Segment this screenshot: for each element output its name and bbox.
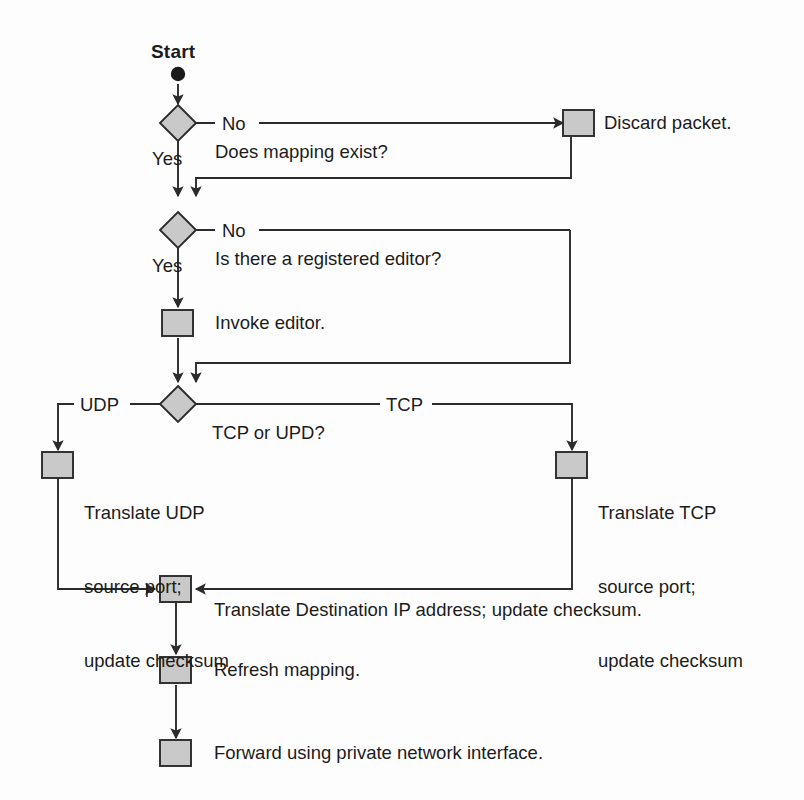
process-label-translate-tcp-line1: Translate TCP [598, 501, 743, 526]
edge-label-editor-yes: Yes [152, 254, 182, 278]
process-forward-packet [160, 740, 191, 766]
process-label-translate-tcp-line3: update checksum [598, 649, 743, 674]
start-label: Start [151, 40, 195, 64]
process-discard-packet [563, 110, 594, 136]
process-translate-tcp [556, 452, 587, 478]
process-label-translate-udp-line3: update checksum [84, 649, 229, 674]
process-invoke-editor [162, 310, 193, 336]
process-label-invoke-editor: Invoke editor. [215, 311, 325, 335]
process-label-translate-destination: Translate Destination IP address; update… [214, 598, 642, 622]
process-label-refresh-mapping: Refresh mapping. [214, 658, 360, 682]
edge-label-mapping-no: No [222, 112, 246, 136]
process-translate-udp [42, 452, 73, 478]
connector-tcp-to-merge [196, 478, 572, 589]
process-label-translate-tcp: Translate TCP source port; update checks… [598, 452, 743, 723]
edge-label-editor-no: No [222, 219, 246, 243]
process-label-translate-tcp-line2: source port; [598, 575, 743, 600]
decision-label-registered-editor: Is there a registered editor? [215, 247, 441, 271]
process-label-translate-udp-line2: source port; [84, 575, 229, 600]
start-dot-icon [171, 67, 185, 81]
edge-label-protocol-tcp: TCP [386, 393, 423, 417]
process-label-translate-udp: Translate UDP source port; update checks… [84, 452, 229, 723]
process-label-translate-udp-line1: Translate UDP [84, 501, 229, 526]
process-label-discard-packet: Discard packet. [604, 111, 732, 135]
flowchart-canvas: Start No Yes Does mapping exist? Discard… [0, 0, 804, 800]
decision-registered-editor [160, 212, 196, 248]
decision-label-mapping-exists: Does mapping exist? [215, 140, 388, 164]
decision-protocol [160, 386, 196, 422]
decision-label-protocol: TCP or UPD? [212, 421, 325, 445]
edge-label-mapping-yes: Yes [152, 147, 182, 171]
decision-mapping-exists [160, 105, 196, 141]
edge-label-protocol-udp: UDP [80, 393, 119, 417]
process-label-forward-packet: Forward using private network interface. [214, 741, 543, 765]
